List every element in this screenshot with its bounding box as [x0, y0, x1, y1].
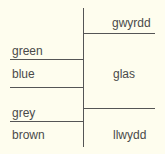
right-divider-top: [83, 33, 155, 34]
left-divider-3: [10, 121, 83, 122]
label-blue: blue: [12, 67, 35, 81]
center-divider: [83, 8, 84, 147]
left-divider-2: [10, 87, 83, 88]
label-gwyrdd: gwyrdd: [112, 16, 151, 30]
label-llwydd: llwydd: [113, 128, 146, 142]
left-divider-1: [10, 59, 83, 60]
label-green: green: [12, 44, 43, 58]
label-brown: brown: [12, 128, 45, 142]
label-glas: glas: [113, 67, 135, 81]
label-grey: grey: [12, 106, 35, 120]
right-divider-bottom: [83, 108, 155, 109]
